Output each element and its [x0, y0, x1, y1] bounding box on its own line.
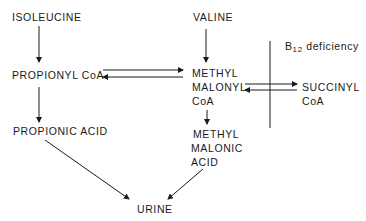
node-propionyl-coa: PROPIONYL CoA: [12, 69, 104, 82]
node-valine: VALINE: [193, 11, 233, 24]
node-methylmalonic-acid-line2: MALONIC: [191, 142, 243, 155]
node-methylmalonyl-coa-line2: MALONYL: [192, 81, 246, 94]
pathway-arrows: [0, 0, 366, 221]
node-methylmalonic-acid-line3: ACID: [191, 156, 219, 169]
node-succinyl-coa-line2: CoA: [302, 95, 324, 108]
node-isoleucine: ISOLEUCINE: [12, 11, 82, 24]
b12-label-sub: 12: [293, 45, 303, 54]
node-propionic-acid: PROPIONIC ACID: [13, 125, 108, 138]
node-methylmalonic-acid-line1: METHYL: [193, 128, 239, 141]
node-methylmalonyl-coa-line3: CoA: [192, 95, 214, 108]
b12-label-b: B: [285, 40, 293, 52]
node-succinyl-coa-line1: SUCCINYL: [302, 81, 360, 94]
node-methylmalonyl-coa-line1: METHYL: [192, 67, 238, 80]
node-urine: URINE: [137, 203, 173, 216]
b12-deficiency-label: B12 deficiency: [285, 40, 359, 56]
b12-label-rest: deficiency: [303, 40, 359, 52]
